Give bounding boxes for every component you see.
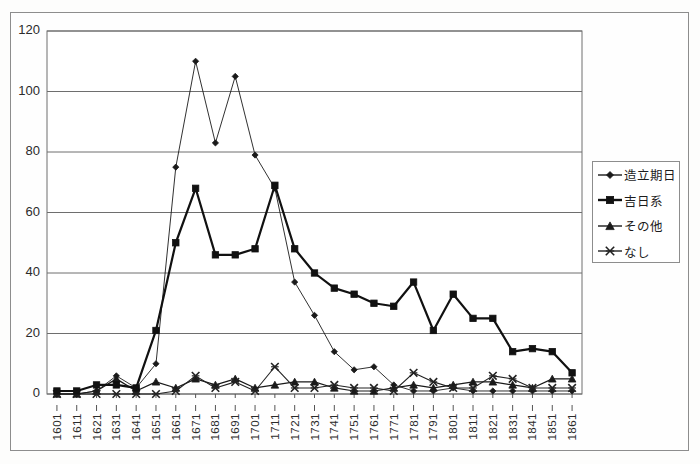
x-axis-tick-label: 1761 (368, 413, 380, 441)
y-axis-tick-label: 0 (8, 385, 40, 400)
square-marker-icon (597, 193, 623, 207)
data-point-square (490, 315, 496, 321)
x-axis-tick-label: 1781 (408, 413, 420, 441)
x-axis-tick-label: 1621 (91, 413, 103, 441)
y-axis-tick-label: 40 (8, 264, 40, 279)
data-point-square (606, 197, 613, 204)
data-point-square (153, 327, 159, 333)
y-axis-tick-label: 80 (8, 143, 40, 158)
x-axis-tick-label: 1701 (249, 413, 261, 441)
data-point-square (391, 303, 397, 309)
data-point-square (410, 279, 416, 285)
data-point-square (529, 345, 535, 351)
x-axis-tick-label: 1791 (427, 413, 439, 441)
chart-legend: 造立期日吉日系その他なし (592, 161, 680, 263)
x-axis-tick-label: 1651 (150, 413, 162, 441)
x-axis-tick-label: 1731 (309, 413, 321, 441)
data-point-square (331, 285, 337, 291)
y-axis-tick-label: 20 (8, 325, 40, 340)
legend-item-label: 造立期日 (624, 165, 676, 184)
data-point-square (549, 348, 555, 354)
x-axis-tick-label: 1831 (507, 413, 519, 441)
data-point-square (54, 388, 60, 394)
y-axis-tick-label: 100 (8, 83, 40, 98)
data-point-square (212, 252, 218, 258)
data-point-square (232, 252, 238, 258)
diamond-marker-icon (597, 168, 623, 182)
data-point-square (291, 246, 297, 252)
data-point-square (430, 327, 436, 333)
data-point-square (272, 182, 278, 188)
legend-item-label: その他 (624, 216, 663, 235)
x-axis-tick-label: 1631 (110, 413, 122, 441)
x-axis-tick-label: 1641 (130, 413, 142, 441)
x-axis-tick-label: 1821 (487, 413, 499, 441)
data-point-square (311, 270, 317, 276)
x-axis-tick-label: 1771 (388, 413, 400, 441)
chart-container: 020406080100120 160116111621163116411651… (0, 0, 700, 464)
data-point-square (470, 315, 476, 321)
x-axis-tick-label: 1711 (269, 413, 281, 440)
x-axis-tick-label: 1671 (190, 413, 202, 441)
legend-item-diamond: 造立期日 (593, 162, 679, 188)
legend-item-cross: なし (593, 239, 679, 265)
data-point-square (173, 240, 179, 246)
x-axis-tick-label: 1751 (348, 413, 360, 441)
x-axis-tick-label: 1841 (526, 413, 538, 441)
cross-marker-icon (597, 244, 623, 258)
triangle-marker-icon (597, 219, 623, 233)
data-point-square (113, 382, 119, 388)
data-point-cross (606, 247, 614, 255)
y-axis-tick-label: 120 (8, 22, 40, 37)
x-axis-tick-label: 1661 (170, 413, 182, 441)
x-axis-tick-label: 1721 (289, 413, 301, 441)
data-point-square (509, 348, 515, 354)
data-point-square (569, 370, 575, 376)
data-point-square (371, 300, 377, 306)
data-point-square (133, 385, 139, 391)
legend-item-label: なし (624, 242, 650, 261)
x-axis-tick-label: 1681 (209, 413, 221, 441)
data-point-diamond (607, 171, 614, 178)
x-axis-tick-label: 1851 (546, 413, 558, 441)
x-axis-tick-label: 1601 (51, 413, 63, 441)
legend-item-label: 吉日系 (624, 191, 663, 210)
data-point-square (93, 382, 99, 388)
x-axis-tick-label: 1611 (71, 413, 83, 440)
legend-item-triangle: その他 (593, 213, 679, 239)
data-point-square (450, 291, 456, 297)
data-point-square (252, 246, 258, 252)
x-axis-tick-label: 1861 (566, 413, 578, 441)
x-axis-tick-label: 1691 (229, 413, 241, 441)
x-axis-tick-label: 1741 (328, 413, 340, 441)
data-point-square (192, 185, 198, 191)
data-point-square (351, 291, 357, 297)
legend-item-square: 吉日系 (593, 188, 679, 214)
x-axis-tick-label: 1801 (447, 413, 459, 441)
y-axis-tick-label: 60 (8, 204, 40, 219)
data-point-square (74, 388, 80, 394)
x-axis-tick-label: 1811 (467, 413, 479, 440)
